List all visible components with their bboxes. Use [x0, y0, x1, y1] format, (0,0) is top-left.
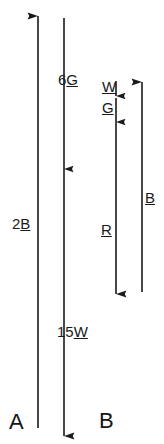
label-b-symbol: B [145, 189, 155, 206]
label-r: R [101, 222, 112, 237]
label-w-symbol: W [102, 78, 116, 95]
label-2b: 2B [12, 216, 30, 231]
label-15w-coefficient: 15 [57, 323, 74, 340]
label-6g-symbol: G [66, 71, 78, 88]
label-r-symbol: R [101, 221, 112, 238]
label-w: W [102, 79, 116, 94]
label-15w: 15W [57, 324, 88, 339]
label-2b-symbol: B [20, 215, 30, 232]
label-g: G [102, 100, 114, 115]
label-b: B [145, 190, 155, 205]
label-g-symbol: G [102, 99, 114, 116]
vector-diagram: 2B 6G 15W W G R B A B [0, 0, 164, 444]
label-6g: 6G [58, 72, 78, 87]
group-label-b: B [99, 410, 114, 432]
label-15w-symbol: W [74, 323, 88, 340]
group-label-a: A [9, 411, 24, 433]
